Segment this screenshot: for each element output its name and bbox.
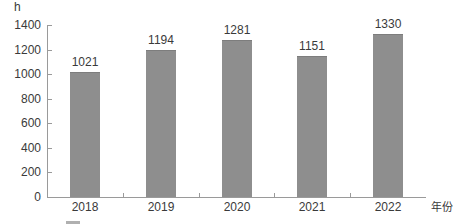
bar [146,50,176,197]
bar-value-label: 1281 [207,24,267,36]
y-axis-tick-label: 800 [0,93,41,105]
x-axis-tick-mark [123,193,124,197]
y-axis-tick-label: 400 [0,142,41,154]
x-axis-tick-mark [274,193,275,197]
y-axis-tick-mark [48,123,52,124]
y-axis-tick-text: 0 [0,191,41,203]
legend-swatch-icon [66,221,80,224]
bar-value-label: 1021 [55,56,115,68]
y-axis-tick-mark [48,50,52,51]
x-axis-name: 年份 [431,202,453,213]
y-axis-tick-label: 600 [0,117,41,129]
y-axis-tick-mark [48,25,52,26]
y-axis-tick-text: 1400 [0,19,41,31]
x-axis-tick-mark [199,193,200,197]
y-axis-unit-label: h [14,1,21,13]
y-axis-tick-label: 0 [0,191,41,203]
bar-value-label: 1330 [358,18,418,30]
y-axis-tick-mark [48,99,52,100]
y-axis-tick-text: 400 [0,142,41,154]
y-axis-tick-label: 1000 [0,68,41,80]
y-axis-tick-label: 1400 [0,19,41,31]
bar [222,40,252,197]
x-axis-tick-label: 2021 [282,201,342,213]
bar [70,72,100,197]
x-axis-tick-label: 2019 [131,201,191,213]
y-axis-tick-text: 800 [0,93,41,105]
x-axis-tick-label: 2022 [358,201,418,213]
y-axis-tick-text: 1000 [0,68,41,80]
bar [297,56,327,197]
bar-value-label: 1151 [282,40,342,52]
y-axis-tick-mark [48,172,52,173]
y-axis-tick-label: 1200 [0,44,41,56]
y-axis-tick-mark [48,148,52,149]
y-axis-tick-mark [48,74,52,75]
bar-value-label: 1194 [131,34,191,46]
x-axis-tick-label: 2020 [207,201,267,213]
y-axis-tick-text: 200 [0,166,41,178]
bar-chart: h 0200400600800100012001400 102111941281… [0,0,461,224]
y-axis-tick-text: 1200 [0,44,41,56]
x-axis-tick-mark [350,193,351,197]
y-axis-tick-text: 600 [0,117,41,129]
caption-strip [0,219,461,224]
x-axis-line [47,197,426,198]
bar [373,34,403,197]
y-axis-tick-label: 200 [0,166,41,178]
x-axis-tick-label: 2018 [55,201,115,213]
